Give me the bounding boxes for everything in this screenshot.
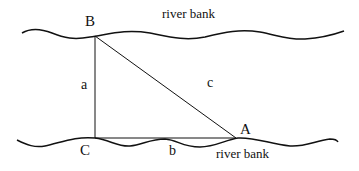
side-a-label: a xyxy=(81,77,88,92)
bottom-river-bank-label: river bank xyxy=(216,146,270,161)
top-river-bank-label: river bank xyxy=(162,6,216,21)
side-c-line xyxy=(95,36,236,138)
top-river-bank-line xyxy=(22,29,344,39)
vertex-a-label: A xyxy=(240,121,251,137)
vertex-b-label: B xyxy=(85,13,95,29)
vertex-c-label: C xyxy=(80,142,90,158)
side-b-label: b xyxy=(169,143,176,158)
bottom-river-bank-line xyxy=(17,138,338,147)
side-c-label: c xyxy=(207,75,213,90)
river-triangle-diagram: B river bank a c A C b river bank xyxy=(0,0,359,171)
